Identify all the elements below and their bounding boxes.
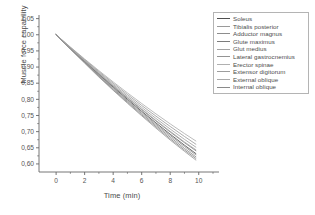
legend-item[interactable]: Extensor digitorum	[216, 68, 306, 76]
legend-line-swatch	[217, 49, 230, 50]
y-tick-label: 0,60	[21, 160, 34, 167]
y-tick-label: 1,05	[21, 15, 34, 22]
y-tick-label: 0,80	[21, 96, 34, 103]
x-tick-label: 10	[195, 177, 203, 184]
data-lines	[56, 35, 196, 160]
x-tick-label: 0	[54, 177, 58, 184]
legend-item[interactable]: Tibialis posterior	[216, 23, 306, 31]
y-tick-label: 0,90	[21, 63, 34, 70]
y-tick-label: 0,75	[21, 112, 34, 119]
legend-item[interactable]: Erector spinae	[216, 61, 306, 69]
legend-line-swatch	[217, 71, 230, 72]
legend-item-label: Internal oblique	[233, 83, 276, 91]
legend-item[interactable]: Lateral gastrocnemius	[216, 53, 306, 61]
legend-item-label: Glute maximus	[233, 38, 275, 46]
y-tick-label: 0,65	[21, 144, 34, 151]
chart-figure: Muscle force capability Time (min) 0,600…	[0, 0, 315, 215]
legend-item[interactable]: Adductor magnus	[216, 30, 306, 38]
legend-line-swatch	[217, 64, 230, 65]
legend: SoleusTibialis posteriorAdductor magnusG…	[213, 12, 309, 94]
legend-item-label: External oblique	[233, 76, 278, 84]
legend-item-label: Adductor magnus	[233, 30, 282, 38]
legend-line-swatch	[217, 87, 230, 88]
data-line	[56, 35, 196, 141]
legend-item[interactable]: Glut medius	[216, 45, 306, 53]
legend-item[interactable]: Soleus	[216, 15, 306, 23]
y-tick-label: 1,00	[21, 31, 34, 38]
x-tick-label: 6	[140, 177, 144, 184]
legend-item-label: Glut medius	[233, 45, 267, 53]
legend-line-swatch	[217, 41, 230, 42]
legend-item[interactable]: External oblique	[216, 76, 306, 84]
legend-line-swatch	[217, 33, 230, 34]
x-tick-label: 4	[111, 177, 115, 184]
axis-ticks: 0,600,650,700,750,800,850,900,951,001,05…	[21, 15, 213, 184]
legend-item-label: Erector spinae	[233, 61, 274, 69]
data-line	[56, 35, 196, 144]
legend-item-label: Tibialis posterior	[233, 23, 279, 31]
legend-line-swatch	[217, 56, 230, 57]
y-tick-label: 0,70	[21, 128, 34, 135]
legend-item-label: Extensor digitorum	[233, 68, 286, 76]
legend-item[interactable]: Glute maximus	[216, 38, 306, 46]
x-tick-label: 8	[168, 177, 172, 184]
legend-item-label: Soleus	[233, 15, 252, 23]
legend-line-swatch	[217, 79, 230, 80]
legend-item[interactable]: Internal oblique	[216, 83, 306, 91]
legend-item-label: Lateral gastrocnemius	[233, 53, 295, 61]
y-tick-label: 0,85	[21, 79, 34, 86]
legend-line-swatch	[217, 18, 230, 19]
x-tick-label: 2	[83, 177, 87, 184]
y-tick-label: 0,95	[21, 47, 34, 54]
legend-line-swatch	[217, 26, 230, 27]
